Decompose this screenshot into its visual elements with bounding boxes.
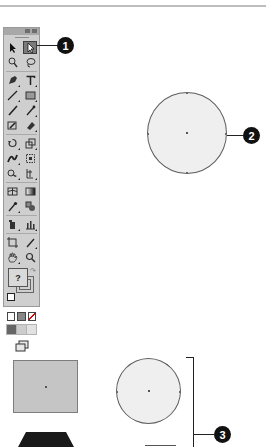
pen-tool[interactable] — [6, 74, 20, 87]
rotate-icon — [7, 138, 18, 149]
dark-polygon-shape[interactable] — [18, 432, 74, 447]
leader-line-3 — [193, 434, 214, 435]
shape-builder-tool[interactable] — [6, 167, 20, 180]
gradient-icon — [25, 186, 36, 197]
pencil-tool[interactable] — [23, 104, 37, 117]
eraser-tool[interactable] — [23, 119, 37, 132]
flyout-indicator — [35, 100, 37, 102]
zoom-icon — [25, 252, 36, 263]
default-fill-stroke-icon[interactable] — [7, 293, 15, 301]
draw-behind-button[interactable] — [17, 325, 26, 334]
draw-inside-button[interactable] — [27, 325, 36, 334]
direct-selection-tool[interactable] — [23, 41, 37, 54]
panel-title-bar[interactable] — [4, 28, 39, 35]
perspective-grid-tool[interactable] — [23, 167, 37, 180]
symbol-sprayer-tool[interactable] — [6, 218, 20, 231]
flyout-indicator — [35, 130, 37, 132]
column-graph-icon — [25, 219, 36, 230]
eyedropper-icon — [7, 201, 18, 212]
circle-shape[interactable] — [116, 358, 181, 424]
leader-line-1 — [37, 45, 57, 46]
line-segment-tool[interactable] — [6, 89, 20, 102]
eyedropper-tool[interactable] — [6, 200, 20, 213]
flyout-indicator — [18, 229, 20, 231]
line-shape[interactable] — [145, 445, 176, 446]
anchor-point[interactable] — [179, 391, 181, 393]
anchor-point[interactable] — [147, 133, 149, 135]
center-point — [148, 390, 150, 392]
panel-grip[interactable] — [4, 35, 39, 40]
separator — [6, 134, 37, 135]
selected-circle-shape[interactable] — [147, 92, 227, 174]
paintbrush-tool[interactable] — [6, 104, 20, 117]
separator — [6, 215, 37, 216]
free-transform-icon — [25, 153, 36, 164]
gradient-tool[interactable] — [23, 185, 37, 198]
fill-swatch[interactable]: ? — [8, 268, 28, 287]
arrow-icon — [7, 42, 18, 53]
width-tool[interactable] — [6, 152, 20, 165]
type-icon — [25, 75, 36, 86]
hand-icon — [7, 252, 18, 263]
blob-brush-tool[interactable] — [6, 119, 20, 132]
anchor-point[interactable] — [186, 172, 188, 174]
rectangle-shape[interactable] — [13, 360, 78, 413]
fill-stroke-control[interactable]: ? ↷ — [7, 267, 36, 309]
separator — [6, 71, 37, 72]
blend-tool[interactable] — [23, 200, 37, 213]
eraser-icon — [25, 120, 36, 131]
slice-tool[interactable] — [23, 236, 37, 249]
top-rule — [0, 5, 266, 7]
flyout-indicator — [18, 100, 20, 102]
artboard-tool[interactable] — [6, 236, 20, 249]
separator — [6, 233, 37, 234]
flyout-indicator — [35, 85, 37, 87]
blob-brush-icon — [7, 120, 18, 131]
scale-tool[interactable] — [23, 137, 37, 150]
selection-tool[interactable] — [6, 41, 20, 54]
slice-icon — [25, 237, 36, 248]
mesh-icon — [7, 186, 18, 197]
callout-2: 2 — [243, 127, 260, 144]
rotate-tool[interactable] — [6, 137, 20, 150]
rectangle-tool[interactable] — [23, 89, 37, 102]
column-graph-tool[interactable] — [23, 218, 37, 231]
flyout-indicator — [35, 178, 37, 180]
zoom-tool[interactable] — [23, 251, 37, 264]
color-button[interactable] — [7, 312, 15, 321]
gradient-button[interactable] — [17, 312, 25, 321]
leader-line-2 — [227, 135, 243, 136]
collapse-icon[interactable] — [25, 29, 30, 33]
magic-wand-icon — [7, 57, 18, 68]
mesh-tool[interactable] — [6, 185, 20, 198]
blend-icon — [25, 201, 36, 212]
shape-builder-icon — [7, 168, 18, 179]
flyout-indicator — [35, 229, 37, 231]
callout-1: 1 — [57, 37, 74, 54]
pencil-icon — [25, 105, 36, 116]
hand-tool[interactable] — [6, 251, 20, 264]
none-button[interactable] — [28, 312, 36, 321]
screen-mode-icon — [15, 340, 29, 352]
scale-icon — [25, 138, 36, 149]
symbol-sprayer-icon — [7, 219, 18, 230]
type-tool[interactable] — [23, 74, 37, 87]
drawing-mode-row — [6, 324, 37, 335]
flyout-indicator — [18, 85, 20, 87]
anchor-point[interactable] — [116, 391, 118, 393]
magic-wand-tool[interactable] — [6, 56, 20, 69]
change-screen-mode-button[interactable] — [4, 340, 39, 352]
close-icon[interactable] — [32, 29, 37, 33]
swap-fill-stroke-icon[interactable]: ↷ — [30, 267, 36, 275]
flyout-indicator — [18, 178, 20, 180]
draw-normal-button[interactable] — [7, 325, 16, 334]
width-icon — [7, 153, 18, 164]
flyout-indicator — [35, 247, 37, 249]
anchor-point[interactable] — [186, 92, 188, 94]
lasso-tool[interactable] — [23, 56, 37, 69]
flyout-indicator — [18, 262, 20, 264]
flyout-indicator — [35, 115, 37, 117]
free-transform-tool[interactable] — [23, 152, 37, 165]
flyout-indicator — [18, 163, 20, 165]
center-point — [186, 132, 188, 134]
